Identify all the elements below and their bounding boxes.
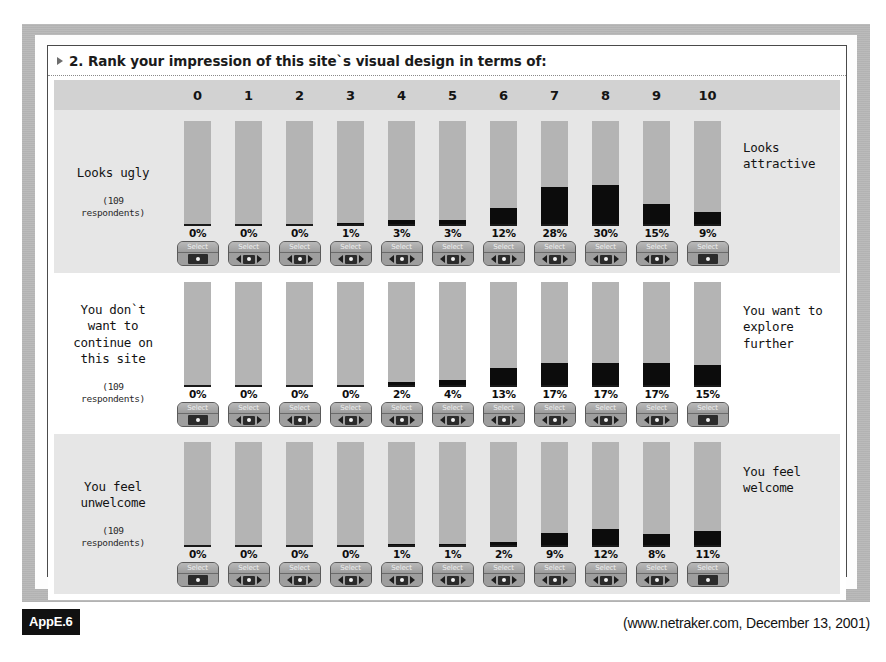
select-control-strip[interactable]: [382, 414, 422, 426]
arrow-left-icon[interactable]: [542, 576, 547, 584]
radio-dot-icon[interactable]: [396, 255, 408, 264]
select-control-strip[interactable]: [229, 253, 269, 265]
radio-dot-icon[interactable]: [698, 254, 718, 264]
radio-dot-icon[interactable]: [600, 416, 612, 425]
radio-dot-icon[interactable]: [294, 255, 306, 264]
select-control-strip[interactable]: [433, 253, 473, 265]
select-rating-3-button[interactable]: Select: [330, 241, 372, 266]
arrow-left-icon[interactable]: [491, 576, 496, 584]
arrow-right-icon[interactable]: [512, 416, 517, 424]
arrow-right-icon[interactable]: [614, 255, 619, 263]
select-rating-8-button[interactable]: Select: [585, 562, 627, 587]
arrow-left-icon[interactable]: [644, 576, 649, 584]
radio-dot-icon[interactable]: [651, 255, 663, 264]
arrow-right-icon[interactable]: [410, 576, 415, 584]
arrow-left-icon[interactable]: [542, 255, 547, 263]
radio-dot-icon[interactable]: [243, 255, 255, 264]
radio-dot-icon[interactable]: [651, 576, 663, 585]
radio-dot-icon[interactable]: [549, 416, 561, 425]
arrow-right-icon[interactable]: [665, 416, 670, 424]
select-rating-5-button[interactable]: Select: [432, 562, 474, 587]
arrow-left-icon[interactable]: [287, 416, 292, 424]
arrow-right-icon[interactable]: [563, 576, 568, 584]
select-control-strip[interactable]: [586, 574, 626, 586]
radio-dot-icon[interactable]: [243, 576, 255, 585]
select-rating-4-button[interactable]: Select: [381, 562, 423, 587]
select-control-strip[interactable]: [688, 574, 728, 586]
arrow-right-icon[interactable]: [359, 255, 364, 263]
select-control-strip[interactable]: [484, 574, 524, 586]
radio-dot-icon[interactable]: [345, 255, 357, 264]
select-rating-6-button[interactable]: Select: [483, 241, 525, 266]
radio-dot-icon[interactable]: [345, 576, 357, 585]
radio-dot-icon[interactable]: [345, 416, 357, 425]
arrow-right-icon[interactable]: [308, 255, 313, 263]
arrow-right-icon[interactable]: [257, 416, 262, 424]
select-rating-9-button[interactable]: Select: [636, 562, 678, 587]
arrow-right-icon[interactable]: [665, 255, 670, 263]
select-control-strip[interactable]: [331, 574, 371, 586]
select-rating-3-button[interactable]: Select: [330, 402, 372, 427]
radio-dot-icon[interactable]: [498, 416, 510, 425]
radio-dot-icon[interactable]: [651, 416, 663, 425]
arrow-right-icon[interactable]: [359, 576, 364, 584]
select-control-strip[interactable]: [280, 253, 320, 265]
arrow-left-icon[interactable]: [542, 416, 547, 424]
radio-dot-icon[interactable]: [188, 575, 208, 585]
select-control-strip[interactable]: [178, 574, 218, 586]
arrow-right-icon[interactable]: [665, 576, 670, 584]
select-control-strip[interactable]: [484, 253, 524, 265]
select-rating-6-button[interactable]: Select: [483, 562, 525, 587]
select-rating-10-button[interactable]: Select: [687, 241, 729, 266]
radio-dot-icon[interactable]: [549, 255, 561, 264]
radio-dot-icon[interactable]: [294, 576, 306, 585]
select-control-strip[interactable]: [637, 574, 677, 586]
select-rating-2-button[interactable]: Select: [279, 402, 321, 427]
radio-dot-icon[interactable]: [447, 576, 459, 585]
radio-dot-icon[interactable]: [698, 575, 718, 585]
arrow-right-icon[interactable]: [461, 576, 466, 584]
select-rating-3-button[interactable]: Select: [330, 562, 372, 587]
select-rating-1-button[interactable]: Select: [228, 241, 270, 266]
select-control-strip[interactable]: [280, 414, 320, 426]
radio-dot-icon[interactable]: [188, 415, 208, 425]
select-rating-9-button[interactable]: Select: [636, 402, 678, 427]
select-control-strip[interactable]: [637, 253, 677, 265]
select-rating-10-button[interactable]: Select: [687, 562, 729, 587]
radio-dot-icon[interactable]: [549, 576, 561, 585]
select-rating-6-button[interactable]: Select: [483, 402, 525, 427]
select-control-strip[interactable]: [688, 414, 728, 426]
select-control-strip[interactable]: [382, 574, 422, 586]
select-rating-0-button[interactable]: Select: [177, 241, 219, 266]
select-rating-1-button[interactable]: Select: [228, 402, 270, 427]
radio-dot-icon[interactable]: [243, 416, 255, 425]
radio-dot-icon[interactable]: [600, 576, 612, 585]
select-control-strip[interactable]: [586, 414, 626, 426]
arrow-right-icon[interactable]: [461, 255, 466, 263]
arrow-left-icon[interactable]: [236, 255, 241, 263]
arrow-left-icon[interactable]: [491, 255, 496, 263]
select-rating-10-button[interactable]: Select: [687, 402, 729, 427]
arrow-left-icon[interactable]: [389, 576, 394, 584]
radio-dot-icon[interactable]: [698, 415, 718, 425]
select-rating-5-button[interactable]: Select: [432, 241, 474, 266]
select-control-strip[interactable]: [382, 253, 422, 265]
select-control-strip[interactable]: [229, 574, 269, 586]
radio-dot-icon[interactable]: [600, 255, 612, 264]
select-control-strip[interactable]: [178, 414, 218, 426]
arrow-left-icon[interactable]: [644, 416, 649, 424]
select-rating-2-button[interactable]: Select: [279, 241, 321, 266]
arrow-left-icon[interactable]: [491, 416, 496, 424]
select-control-strip[interactable]: [688, 253, 728, 265]
select-control-strip[interactable]: [535, 574, 575, 586]
select-control-strip[interactable]: [331, 253, 371, 265]
arrow-right-icon[interactable]: [563, 416, 568, 424]
select-rating-0-button[interactable]: Select: [177, 562, 219, 587]
select-control-strip[interactable]: [484, 414, 524, 426]
radio-dot-icon[interactable]: [498, 576, 510, 585]
select-rating-2-button[interactable]: Select: [279, 562, 321, 587]
arrow-left-icon[interactable]: [440, 416, 445, 424]
arrow-right-icon[interactable]: [257, 576, 262, 584]
select-rating-5-button[interactable]: Select: [432, 402, 474, 427]
select-control-strip[interactable]: [178, 253, 218, 265]
